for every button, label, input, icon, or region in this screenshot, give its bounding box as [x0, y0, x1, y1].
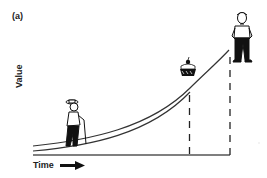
cake-icon	[180, 57, 196, 76]
upper-value-curve	[33, 50, 229, 146]
stray-dot	[258, 142, 259, 143]
time-arrow-icon	[60, 161, 85, 170]
young-man-icon	[232, 13, 252, 63]
lower-value-curve	[33, 92, 190, 151]
diagram-canvas	[0, 0, 267, 178]
